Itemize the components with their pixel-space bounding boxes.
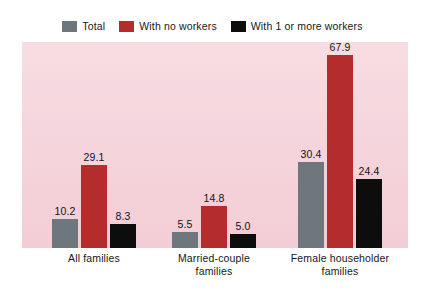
bar-value-label: 30.4 [300, 149, 321, 160]
bar[interactable]: 67.9 [327, 55, 353, 248]
bar[interactable]: 8.3 [110, 224, 136, 248]
bar[interactable]: 30.4 [298, 162, 324, 248]
bar[interactable]: 10.2 [52, 219, 78, 248]
bar-value-label: 8.3 [115, 211, 130, 222]
legend-swatch-icon [62, 21, 77, 32]
chart-legend: Total With no workers With 1 or more wor… [0, 18, 425, 34]
bar[interactable]: 14.8 [201, 206, 227, 248]
legend-item-label: With no workers [139, 21, 217, 32]
category-axis-label-line: Female householder [265, 252, 415, 265]
bar-value-label: 10.2 [54, 206, 75, 217]
bar-value-label: 67.9 [329, 42, 350, 53]
bar-value-label: 5.0 [235, 221, 250, 232]
bar[interactable]: 29.1 [81, 165, 107, 248]
legend-item-label: Total [82, 21, 105, 32]
legend-item-total: Total [62, 21, 105, 32]
legend-swatch-icon [231, 21, 246, 32]
legend-item-label: With 1 or more workers [251, 21, 363, 32]
chart-category-axis: All familiesMarried-couplefamiliesFemale… [22, 252, 408, 292]
bar-value-label: 14.8 [203, 193, 224, 204]
bar[interactable]: 5.0 [230, 234, 256, 248]
bar-group: 30.467.924.4 [298, 42, 382, 248]
bar[interactable]: 5.5 [172, 232, 198, 248]
legend-swatch-icon [119, 21, 134, 32]
category-axis-label-line: families [265, 265, 415, 278]
bar-group: 5.514.85.0 [172, 42, 256, 248]
bar-value-label: 5.5 [177, 219, 192, 230]
bar-group: 10.229.18.3 [52, 42, 136, 248]
legend-item-with-one-or-more-workers: With 1 or more workers [231, 21, 363, 32]
bar-value-label: 24.4 [358, 166, 379, 177]
category-axis-label: Female householderfamilies [265, 252, 415, 278]
legend-item-with-no-workers: With no workers [119, 21, 217, 32]
bar[interactable]: 24.4 [356, 179, 382, 248]
chart-plot-area: 10.229.18.35.514.85.030.467.924.4 [22, 42, 408, 248]
bar-value-label: 29.1 [83, 152, 104, 163]
